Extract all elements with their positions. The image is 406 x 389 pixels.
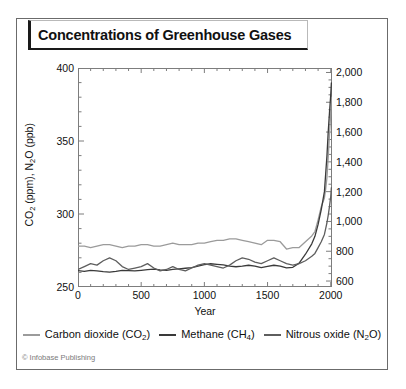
series-line [78,97,331,249]
y-axis-right-tick-label: 1,600 [336,126,362,138]
x-axis-label: Year [78,305,332,317]
legend-label: Nitrous oxide (N2O) [286,328,382,342]
series-line [78,188,331,271]
y-axis-left-tick-label: 350 [56,135,74,147]
legend-item-1[interactable]: Methane (CH4) [159,328,255,342]
x-axis-tick-label: 1000 [193,289,216,301]
y-axis-right-tick-label: 1,000 [336,215,362,227]
y-axis-right-tick-label: 1,200 [336,186,362,198]
y-axis-right-tick-label: 2,000 [336,66,362,78]
plot-lines [78,68,332,287]
y-axis-right-tick-label: 600 [336,275,354,287]
legend-item-0[interactable]: Carbon dioxide (CO2) [23,328,150,342]
x-axis-ticks: 0500100015002000 [78,289,332,303]
y-axis-right-ticks: 6008001,0001,2001,4001,6001,8002,000 [336,68,382,287]
y-axis-left-tick-label: 400 [56,62,74,74]
copyright-credit: © Infobase Publishing [22,353,95,362]
x-axis-tick-label: 500 [132,289,150,301]
legend-swatch-icon [264,334,281,336]
chart-title-box: Concentrations of Greenhouse Gases [28,20,308,50]
y-axis-left-ticks: 250300350400 [36,68,74,287]
y-axis-right-tick-label: 1,400 [336,156,362,168]
legend-item-2[interactable]: Nitrous oxide (N2O) [264,328,382,342]
y-axis-left-tick-label: 250 [56,281,74,293]
legend-swatch-icon [159,334,176,336]
legend-label: Methane (CH4) [181,328,255,342]
y-axis-left-label-text: CO2 (ppm), N2O (ppb) [23,123,37,227]
x-axis-tick-label: 0 [75,289,81,301]
y-axis-right-tick-label: 1,800 [336,96,362,108]
x-axis-tick-label: 1500 [256,289,279,301]
chart-legend: Carbon dioxide (CO2)Methane (CH4)Nitrous… [24,326,380,344]
y-axis-left-tick-label: 300 [56,208,74,220]
x-axis-tick-label: 2000 [319,289,342,301]
plot-area [78,68,332,287]
legend-label: Carbon dioxide (CO2) [45,328,150,342]
legend-swatch-icon [23,334,40,336]
page-title: Concentrations of Greenhouse Gases [31,27,291,43]
chart-figure: Concentrations of Greenhouse Gases CO2 (… [0,0,406,389]
y-axis-right-tick-label: 800 [336,245,354,257]
